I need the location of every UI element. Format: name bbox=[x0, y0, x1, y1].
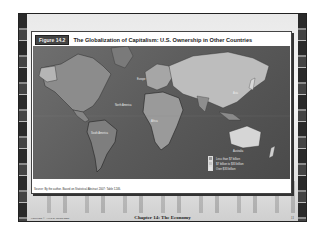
footer-page-number: 11 bbox=[291, 216, 294, 220]
figure-badge: Figure 14.2 bbox=[35, 35, 69, 45]
presentation-slide: Figure 14.2 The Globalization of Capital… bbox=[18, 13, 307, 222]
map-legend: Less than $7 billion $7 billion to $33 b… bbox=[208, 156, 244, 171]
figure-title: The Globalization of Capitalism: U.S. Ow… bbox=[73, 37, 252, 43]
map-label-north-america: North America bbox=[115, 104, 131, 107]
legend-swatch bbox=[208, 166, 213, 171]
map-label-south-america: South America bbox=[91, 132, 108, 135]
world-map: North America South America Europe Afric… bbox=[33, 46, 290, 179]
legend-item: Over $33 billion bbox=[208, 166, 244, 171]
legend-label: Less than $7 billion bbox=[216, 157, 240, 161]
filmstrip-decoration-left bbox=[19, 14, 27, 221]
map-label-africa: Africa bbox=[151, 120, 158, 123]
map-label-europe: Europe bbox=[137, 78, 145, 81]
figure-source: Source: By the author. Based on Statisti… bbox=[34, 187, 121, 191]
footer-chapter: Chapter 14: The Economy bbox=[19, 215, 306, 220]
figure-header: Figure 14.2 The Globalization of Capital… bbox=[35, 35, 252, 44]
legend-label: Over $33 billion bbox=[216, 167, 235, 171]
filmstrip-decoration-right bbox=[298, 14, 306, 221]
map-label-australia: Australia bbox=[233, 150, 243, 153]
map-label-asia: Asia bbox=[233, 92, 238, 95]
legend-label: $7 billion to $33 billion bbox=[216, 162, 244, 166]
world-map-shapes bbox=[33, 46, 290, 179]
figure-panel: Figure 14.2 The Globalization of Capital… bbox=[31, 31, 292, 194]
